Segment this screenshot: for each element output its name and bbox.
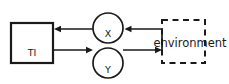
signal-y-label: Y [104,64,111,75]
block-diagram-canvas: TI X Y environment [0,0,229,84]
edge-x-to-system [54,26,93,32]
node-signal-x[interactable]: X [93,13,123,43]
diagram-svg: TI X Y environment [0,0,229,84]
node-system-ti[interactable]: TI [11,23,53,63]
system-box-label: TI [27,47,37,58]
signal-x-label: X [105,28,112,39]
edge-system-to-y [53,47,93,53]
edge-env-to-x-arrowhead [125,26,132,32]
environment-label: environment [153,36,227,50]
node-signal-y[interactable]: Y [93,48,123,78]
edge-x-to-system-arrowhead [54,26,61,32]
edge-system-to-y-arrowhead [86,47,93,53]
